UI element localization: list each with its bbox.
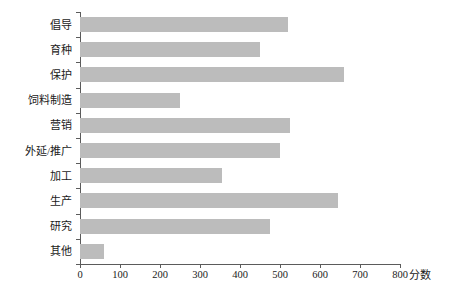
value-tick-label: 300 — [192, 269, 208, 281]
category-tick-mark — [76, 188, 80, 189]
category-tick-mark — [76, 88, 80, 89]
bar — [80, 42, 260, 57]
category-tick-mark — [76, 138, 80, 139]
bar-row — [80, 12, 400, 37]
value-tick-mark — [320, 264, 321, 268]
value-tick-mark — [240, 264, 241, 268]
bar-row — [80, 214, 400, 239]
bar-row — [80, 138, 400, 163]
category-tick-mark — [76, 239, 80, 240]
bar-row — [80, 239, 400, 264]
bar — [80, 143, 280, 158]
bar — [80, 17, 288, 32]
category-label: 育种 — [0, 44, 72, 56]
value-tick-mark — [360, 264, 361, 268]
category-tick-mark — [76, 113, 80, 114]
value-tick-label: 700 — [352, 269, 368, 281]
category-label: 营销 — [0, 119, 72, 131]
value-tick-mark — [160, 264, 161, 268]
value-tick-mark — [280, 264, 281, 268]
category-axis-labels: 倡导育种保护饲料制造营销外延/推广加工生产研究其他 — [0, 12, 76, 264]
bar-row — [80, 163, 400, 188]
value-tick-mark — [200, 264, 201, 268]
value-tick-label: 200 — [152, 269, 168, 281]
category-label: 研究 — [0, 220, 72, 232]
value-tick-label: 600 — [312, 269, 328, 281]
category-label: 饲料制造 — [0, 94, 72, 106]
category-label: 保护 — [0, 69, 72, 81]
x-axis-title: 分数 — [409, 269, 431, 281]
value-tick-mark — [80, 264, 81, 268]
bar-row — [80, 37, 400, 62]
category-tick-mark — [76, 214, 80, 215]
value-tick-label: 800 — [392, 269, 408, 281]
bar-row — [80, 88, 400, 113]
value-tick-label: 400 — [232, 269, 248, 281]
category-label: 加工 — [0, 170, 72, 182]
category-tick-mark — [76, 37, 80, 38]
category-tick-mark — [76, 163, 80, 164]
value-tick-label: 500 — [272, 269, 288, 281]
bar — [80, 93, 180, 108]
bar — [80, 168, 222, 183]
plot-area — [80, 12, 400, 264]
category-label: 其他 — [0, 245, 72, 257]
bar-row — [80, 113, 400, 138]
category-label: 生产 — [0, 195, 72, 207]
value-tick-mark — [400, 264, 401, 268]
bar — [80, 118, 290, 133]
value-tick-mark — [120, 264, 121, 268]
value-axis-ticks: 0100200300400500600700800 — [80, 264, 400, 294]
bar — [80, 244, 104, 259]
bar — [80, 219, 270, 234]
category-tick-mark — [76, 62, 80, 63]
bar — [80, 193, 338, 208]
bar — [80, 67, 344, 82]
category-label: 倡导 — [0, 19, 72, 31]
bar-row — [80, 188, 400, 213]
category-label: 外延/推广 — [0, 145, 72, 157]
bar-rows — [80, 12, 400, 264]
category-tick-mark — [76, 12, 80, 13]
bar-row — [80, 62, 400, 87]
bar-chart: 倡导育种保护饲料制造营销外延/推广加工生产研究其他 01002003004005… — [0, 0, 451, 300]
value-tick-label: 0 — [77, 269, 82, 281]
value-tick-label: 100 — [112, 269, 128, 281]
